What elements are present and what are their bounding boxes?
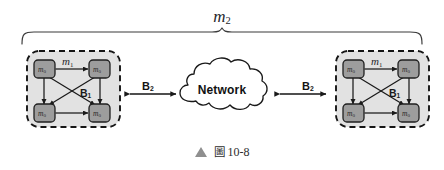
figure-10-8: m2 m1 m1 B1 B1 B2 B2 m0 m0 m0 m0 m0 m0 m… [0,0,444,170]
triangle-up-icon [195,147,207,157]
node-left-top-left[interactable] [34,60,55,78]
node-left-bottom-right[interactable] [89,104,110,122]
figure-caption: 圖10-8 [0,143,444,160]
system-span-brace [22,28,422,44]
node-right-top-right[interactable] [398,60,419,78]
node-left-bottom-left[interactable] [34,104,55,122]
cluster-right[interactable] [336,51,429,127]
node-left-top-right[interactable] [89,60,110,78]
node-right-bottom-right[interactable] [398,104,419,122]
cluster-left[interactable] [27,51,120,127]
caption-number: 10-8 [228,145,250,159]
node-right-bottom-left[interactable] [343,104,364,122]
network-cloud[interactable] [180,58,267,109]
node-right-top-left[interactable] [343,60,364,78]
caption-cjk-word: 圖 [214,145,225,159]
